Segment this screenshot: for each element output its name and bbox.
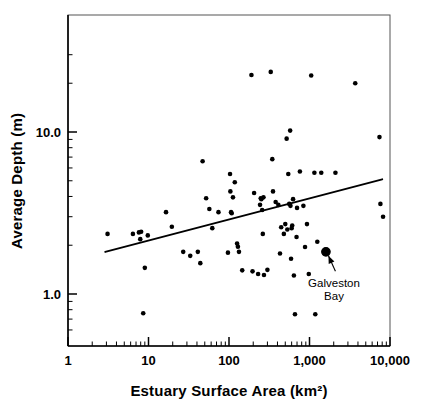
data-point (256, 272, 261, 277)
data-point (270, 157, 275, 162)
data-point (198, 261, 203, 266)
data-point (268, 70, 273, 75)
data-point (141, 311, 146, 316)
data-point (271, 189, 276, 194)
data-point (282, 232, 287, 237)
data-point (228, 189, 233, 194)
data-point (210, 226, 215, 231)
y-tick-label: 10.0 (36, 125, 61, 140)
data-point (377, 135, 382, 140)
y-axis-title: Average Depth (m) (8, 113, 25, 249)
x-tick-label: 10,000 (370, 353, 410, 368)
data-point (313, 312, 318, 317)
data-point (262, 273, 267, 278)
x-axis-title: Estuary Surface Area (km²) (130, 382, 327, 399)
data-point (306, 272, 311, 277)
data-point (378, 202, 383, 207)
data-point (229, 211, 234, 216)
data-point (226, 250, 231, 255)
data-point (216, 210, 221, 215)
data-point (309, 73, 314, 78)
data-point (236, 244, 241, 249)
data-point (200, 159, 205, 164)
data-point (265, 268, 270, 273)
galveston-bay-point (322, 248, 331, 257)
x-tick-label: 1 (64, 353, 71, 368)
data-point (232, 180, 237, 185)
scatter-plot-canvas: 1101001,00010,000 1.010.0 Estuary Surfac… (0, 0, 425, 404)
data-point (381, 214, 386, 219)
x-tick-label: 100 (218, 353, 240, 368)
data-point (231, 195, 236, 200)
data-point (291, 197, 296, 202)
data-point (276, 203, 281, 208)
data-point (290, 223, 295, 228)
data-point (315, 240, 320, 245)
data-point (188, 254, 193, 259)
y-tick-label: 1.0 (43, 287, 61, 302)
data-point (249, 73, 254, 78)
data-point (131, 232, 136, 237)
data-point (228, 172, 233, 177)
data-point (312, 170, 317, 175)
data-point (138, 237, 143, 242)
data-point (353, 81, 358, 86)
data-point (285, 227, 290, 232)
data-point (261, 195, 266, 200)
data-point (303, 245, 308, 250)
data-point (284, 136, 289, 141)
data-point (181, 250, 186, 255)
data-point (258, 203, 263, 208)
data-point (298, 169, 303, 174)
data-point (292, 273, 297, 278)
data-point (294, 235, 299, 240)
data-point (305, 222, 310, 227)
data-point (240, 268, 245, 273)
galveston-bay-label-line1: Galveston (308, 277, 360, 289)
x-tick-label: 1,000 (293, 353, 326, 368)
data-point (301, 204, 306, 209)
data-point (288, 128, 293, 133)
data-point (278, 251, 283, 256)
data-point (139, 230, 144, 235)
x-tick-label: 10 (141, 353, 155, 368)
data-point (319, 170, 324, 175)
galveston-bay-marker (322, 248, 331, 257)
data-point (145, 233, 150, 238)
chart-background (0, 0, 425, 404)
data-point (252, 191, 257, 196)
chart-figure: 1101001,00010,000 1.010.0 Estuary Surfac… (0, 0, 425, 404)
data-point (333, 170, 338, 175)
data-point (295, 206, 300, 211)
data-point (204, 196, 209, 201)
data-point (105, 232, 110, 237)
data-point (283, 222, 288, 227)
data-point (196, 250, 201, 255)
data-point (279, 225, 284, 230)
data-point (237, 250, 242, 255)
data-point (250, 269, 255, 274)
data-point (164, 210, 169, 215)
data-point (288, 204, 293, 209)
data-point (293, 312, 298, 317)
galveston-bay-label-line2: Bay (324, 290, 344, 302)
data-point (170, 224, 175, 229)
data-point (286, 172, 291, 177)
data-point (143, 266, 148, 271)
data-point (289, 256, 294, 261)
data-point (261, 232, 266, 237)
data-point (260, 208, 265, 213)
data-point (207, 207, 212, 212)
